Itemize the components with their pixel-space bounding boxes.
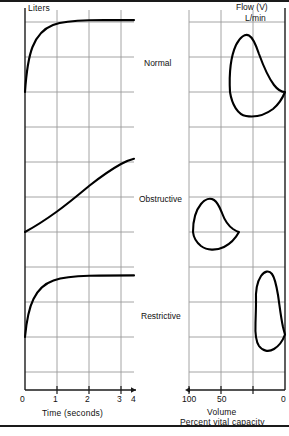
pulmonary-function-figure: Liters 0 1 2 3 4 Time (seconds) Normal O…	[0, 0, 289, 436]
left-panel-axes	[25, 8, 136, 393]
flow-symbol-v-dot: V	[259, 2, 265, 12]
spirogram-curve-restrictive	[25, 275, 134, 337]
left-panel-grid	[25, 10, 134, 390]
left-panel-x-axis-label: Time (seconds)	[42, 408, 103, 418]
right-panel-y-axis-label-line2: L/min	[245, 13, 266, 23]
left-panel-curves	[25, 20, 134, 337]
flow-label-prefix: Flow (	[236, 2, 259, 12]
condition-label-restrictive: Restrictive	[141, 311, 181, 321]
right-x-tick-100: 100	[182, 394, 196, 404]
condition-label-obstructive: Obstructive	[139, 194, 182, 204]
left-panel-y-axis-label: Liters	[28, 3, 50, 13]
right-panel-grid	[189, 10, 285, 390]
flow-label-suffix: )	[265, 2, 268, 12]
flow-volume-loop-restrictive	[255, 272, 285, 351]
flow-volume-loop-obstructive	[193, 199, 239, 250]
left-x-tick-1: 1	[53, 394, 58, 404]
bottom-rule	[0, 425, 289, 427]
left-x-tick-3: 3	[117, 394, 122, 404]
condition-label-normal: Normal	[144, 58, 171, 68]
flow-volume-loop-normal	[230, 35, 285, 116]
right-panel-axes	[185, 8, 285, 393]
left-x-tick-4: 4	[131, 394, 136, 404]
right-x-tick-50: 50	[217, 394, 226, 404]
spirogram-curve-normal	[25, 20, 134, 92]
right-x-tick-0: 0	[281, 394, 286, 404]
right-panel-y-axis-label-line1: Flow (V)	[236, 2, 268, 12]
right-panel-loops	[193, 35, 285, 351]
left-x-tick-0: 0	[20, 394, 25, 404]
spirogram-curve-obstructive	[25, 159, 134, 232]
right-panel-x-axis-label-line1: Volume	[207, 407, 237, 417]
left-x-tick-2: 2	[85, 394, 90, 404]
